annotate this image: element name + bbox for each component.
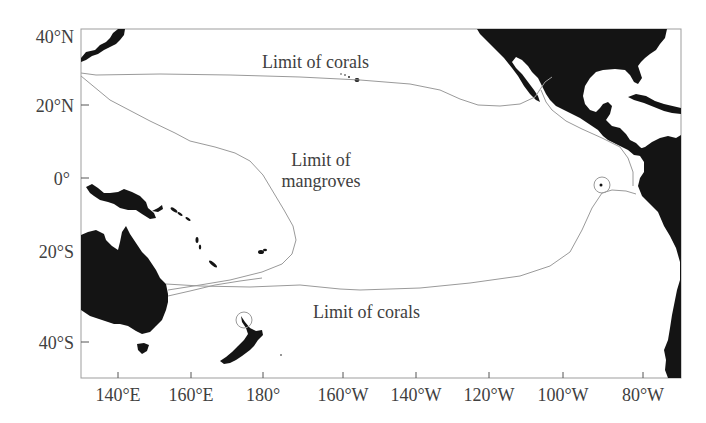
x-tick-label-140e: 140°E (95, 386, 140, 404)
mangrove-limit-label: Limit of mangroves (272, 150, 370, 191)
y-tick-label-0: 0° (0, 170, 70, 188)
south-coral-limit-label: Limit of corals (313, 302, 420, 323)
x-tick-label-140w: 140°W (390, 386, 441, 404)
y-tick-label-40s: 40°S (0, 334, 74, 352)
y-tick-label-40n: 40°N (0, 28, 74, 46)
y-tick-label-20s: 20°S (0, 243, 74, 261)
mangrove-limit-label-line1: Limit of (272, 150, 370, 171)
x-tick-label-100w: 100°W (537, 386, 588, 404)
north-coral-limit-label: Limit of corals (262, 52, 369, 73)
x-tick-label-80w: 80°W (622, 386, 664, 404)
x-tick-label-180: 180° (246, 386, 280, 404)
x-tick-label-160e: 160°E (168, 386, 213, 404)
mangrove-limit-label-line2: mangroves (272, 171, 370, 192)
x-tick-label-120w: 120°W (463, 386, 514, 404)
x-tick-label-160w: 160°W (317, 386, 368, 404)
y-tick-label-20n: 20°N (0, 97, 74, 115)
